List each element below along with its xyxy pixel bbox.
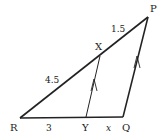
length-label-XP: 1.5 [111,24,126,34]
side-PQ [123,17,148,117]
triangle-diagram: P X R Y Q 1.5 4.5 3 x [0,0,162,138]
side-RQ [20,117,123,118]
vertex-label-P: P [150,3,157,14]
vertex-label-R: R [10,122,18,133]
vertex-label-Y: Y [81,122,89,133]
side-RP [20,17,148,118]
length-label-RX: 4.5 [45,75,60,85]
parallel-arrow-XY-icon [91,79,97,91]
vertex-label-X: X [95,41,103,52]
length-label-YQ: x [106,123,111,133]
vertex-label-Q: Q [122,122,130,133]
length-label-RY: 3 [46,123,52,133]
